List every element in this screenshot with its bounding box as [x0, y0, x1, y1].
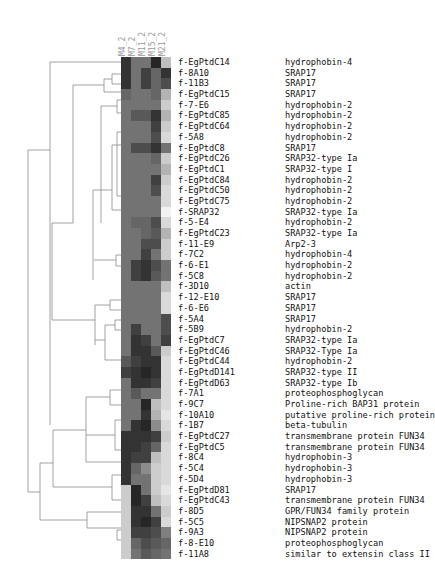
- gene-id: f-EgPtdC8: [178, 143, 285, 154]
- heatmap-cell: [141, 175, 151, 186]
- gene-annotation: hydrophobin-2: [285, 175, 352, 186]
- heatmap-cell: [161, 388, 171, 399]
- heatmap-cell: [161, 442, 171, 453]
- heatmap-cell: [131, 346, 141, 357]
- row-label: f-11-E9Arp2-3: [178, 239, 435, 250]
- heatmap-cell: [121, 495, 131, 506]
- gene-id: f-EgPtdC46: [178, 346, 285, 357]
- heatmap-cell: [121, 399, 131, 410]
- heatmap-cell: [161, 452, 171, 463]
- gene-id: f-EgPtdC15: [178, 89, 285, 100]
- heatmap-row: [121, 281, 171, 292]
- gene-id: f-7C2: [178, 249, 285, 260]
- heatmap-cell: [121, 185, 131, 196]
- heatmap-cell: [141, 442, 151, 453]
- heatmap-cell: [151, 420, 161, 431]
- heatmap-row: [121, 292, 171, 303]
- heatmap-cell: [161, 378, 171, 389]
- heatmap-row: [121, 517, 171, 528]
- heatmap-row: [121, 538, 171, 549]
- gene-id: f-5D4: [178, 474, 285, 485]
- heatmap-cell: [141, 463, 151, 474]
- heatmap-cell: [121, 324, 131, 335]
- heatmap-cell: [121, 260, 131, 271]
- gene-id: f-EgPtdC26: [178, 153, 285, 164]
- heatmap-cell: [141, 196, 151, 207]
- heatmap-row: [121, 175, 171, 186]
- heatmap-cell: [131, 249, 141, 260]
- row-label: f-3D10actin: [178, 281, 435, 292]
- heatmap-cell: [141, 388, 151, 399]
- heatmap-cell: [121, 420, 131, 431]
- heatmap-row: [121, 410, 171, 421]
- heatmap-cell: [151, 378, 161, 389]
- heatmap-row: [121, 474, 171, 485]
- gene-annotation: SRAP17: [285, 89, 316, 100]
- heatmap-row: [121, 399, 171, 410]
- heatmap-cell: [141, 68, 151, 79]
- heatmap-row: [121, 314, 171, 325]
- gene-annotation: hydrophobin-2: [285, 356, 352, 367]
- gene-id: f-5C4: [178, 463, 285, 474]
- heatmap-cell: [121, 527, 131, 538]
- heatmap-cell: [161, 485, 171, 496]
- gene-id: f-8D5: [178, 506, 285, 517]
- row-label: f-5D4hydrophobin-3: [178, 474, 435, 485]
- heatmap-cell: [141, 474, 151, 485]
- heatmap-cell: [131, 57, 141, 68]
- row-label: f-EgPtdD81SRAP17: [178, 485, 435, 496]
- gene-annotation: NIPSNAP2 protein: [285, 527, 368, 538]
- gene-annotation: putative proline-rich protein: [285, 410, 435, 421]
- gene-annotation: hydrophobin-2: [285, 324, 352, 335]
- heatmap-cell: [151, 399, 161, 410]
- gene-annotation: SRAP32-Type Ia: [285, 346, 357, 357]
- heatmap-cell: [161, 228, 171, 239]
- heatmap-cell: [121, 68, 131, 79]
- heatmap-cell: [151, 175, 161, 186]
- row-label: f-EgPtdC15SRAP17: [178, 89, 435, 100]
- row-dendrogram: [0, 0, 121, 571]
- heatmap-cell: [161, 121, 171, 132]
- row-label: f-EgPtdC46SRAP32-Type Ia: [178, 346, 435, 357]
- heatmap-cell: [151, 89, 161, 100]
- heatmap-row: [121, 346, 171, 357]
- gene-annotation: hydrophobin-2: [285, 100, 352, 111]
- gene-id: f-5B9: [178, 324, 285, 335]
- heatmap-cell: [121, 452, 131, 463]
- heatmap-cell: [131, 68, 141, 79]
- heatmap-cell: [161, 132, 171, 143]
- gene-id: f-EgPtdC23: [178, 228, 285, 239]
- gene-annotation: SRAP17: [285, 314, 316, 325]
- heatmap-cell: [161, 110, 171, 121]
- heatmap-cell: [131, 399, 141, 410]
- gene-id: f-EgPtdC44: [178, 356, 285, 367]
- heatmap-cell: [151, 217, 161, 228]
- gene-annotation: transmembrane protein FUN34: [285, 442, 425, 453]
- gene-id: f-EgPtdC75: [178, 196, 285, 207]
- heatmap-cell: [151, 260, 161, 271]
- heatmap-cell: [141, 410, 151, 421]
- heatmap-cell: [131, 420, 141, 431]
- heatmap-cell: [131, 452, 141, 463]
- heatmap-cell: [151, 57, 161, 68]
- heatmap-row: [121, 110, 171, 121]
- row-label: f-12-E10SRAP17: [178, 292, 435, 303]
- heatmap-cell: [161, 68, 171, 79]
- heatmap-cell: [121, 367, 131, 378]
- row-label: f-EgPtdC64hydrophobin-2: [178, 121, 435, 132]
- heatmap-row: [121, 549, 171, 560]
- heatmap-cell: [131, 207, 141, 218]
- heatmap-cell: [141, 207, 151, 218]
- row-label: f-1B7beta-tubulin: [178, 420, 435, 431]
- row-label: f-5C4hydrophobin-3: [178, 463, 435, 474]
- heatmap-row: [121, 78, 171, 89]
- heatmap-row: [121, 527, 171, 538]
- heatmap-cell: [161, 367, 171, 378]
- heatmap-cell: [141, 57, 151, 68]
- heatmap-cell: [131, 153, 141, 164]
- heatmap-row: [121, 452, 171, 463]
- heatmap-cell: [141, 517, 151, 528]
- heatmap-cell: [161, 431, 171, 442]
- heatmap-cell: [161, 549, 171, 560]
- heatmap-cell: [141, 110, 151, 121]
